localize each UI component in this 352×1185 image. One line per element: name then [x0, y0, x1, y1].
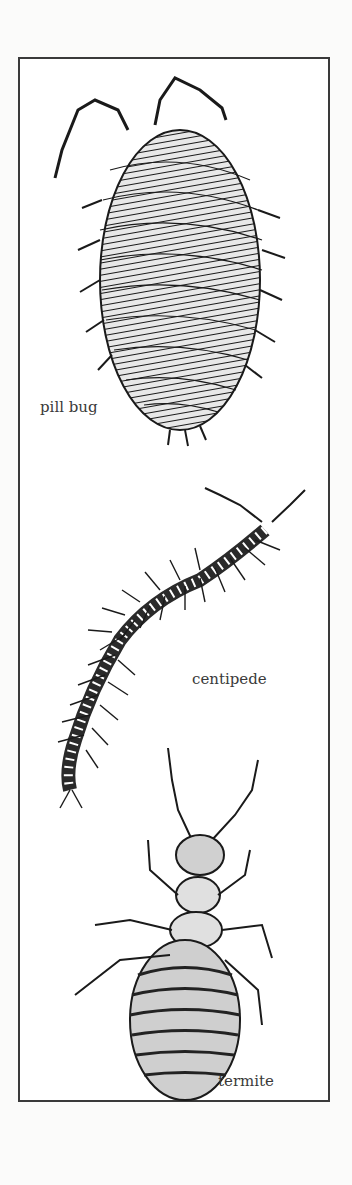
label-pill-bug: pill bug [40, 398, 98, 416]
centipede-drawing [58, 488, 305, 808]
arthropod-drawings [0, 0, 352, 1185]
label-centipede: centipede [192, 670, 267, 688]
termite-drawing [75, 748, 272, 1100]
label-termite: termite [218, 1072, 274, 1090]
pill-bug-drawing [55, 78, 285, 446]
